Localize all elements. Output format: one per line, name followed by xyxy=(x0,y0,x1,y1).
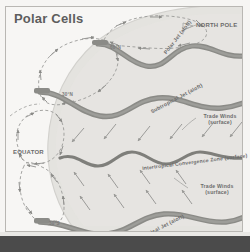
label-trade-winds-lower: Trade Winds (surface) xyxy=(192,184,242,195)
label-north-pole: NORTH POLE xyxy=(196,22,237,29)
diagram-canvas xyxy=(0,0,250,252)
label-lat-60n: 60°N xyxy=(110,45,121,50)
label-trade-winds-upper: Trade Winds (surface) xyxy=(196,114,244,125)
page-title: Polar Cells xyxy=(14,11,83,26)
footer-bar xyxy=(0,236,250,252)
label-trade-winds-upper-line2: (surface) xyxy=(208,119,232,125)
label-trade-winds-lower-line2: (surface) xyxy=(205,189,229,195)
figure-panel: Polar Cells NORTH POLE 60°N 30°N EQUATOR… xyxy=(0,0,250,252)
label-lat-30s: 30°S xyxy=(49,221,60,226)
polar-jet-origin-marker xyxy=(92,40,108,45)
left-limb-dashed-arc xyxy=(10,104,40,116)
label-lat-30n: 30°N xyxy=(62,92,73,97)
label-equator: EQUATOR xyxy=(13,149,44,156)
